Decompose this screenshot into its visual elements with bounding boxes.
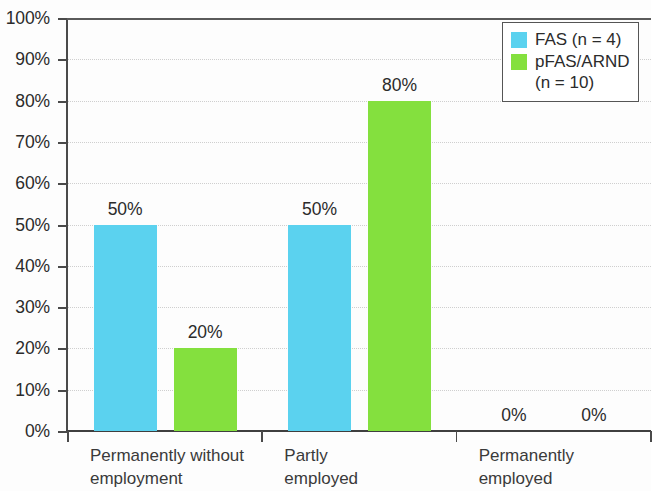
bar-value-label: 80% [382,75,417,96]
chart-legend: FAS (n = 4) pFAS/ARND (n = 10) [502,22,639,102]
bar [174,348,237,431]
bar [368,101,431,431]
y-axis-tick-mark [58,348,67,350]
y-axis-labels: 0%10%20%30%40%50%60%70%80%90%100% [0,0,58,438]
y-axis-tick-mark [58,266,67,268]
y-axis-tick-mark [58,18,67,20]
legend-entry-pfas: pFAS/ARND (n = 10) [511,51,629,93]
y-axis-tick-mark [58,431,67,433]
y-axis-tick-label: 0% [25,421,50,442]
legend-entry-fas: FAS (n = 4) [511,29,629,50]
legend-swatch-fas-icon [511,32,527,48]
y-axis-tick-label: 50% [15,214,50,235]
y-axis-tick-label: 80% [15,90,50,111]
x-axis-category-labels: Permanently without employmentPartly emp… [66,444,651,491]
y-axis-tick-mark [58,225,67,227]
y-axis-tick-mark [58,307,67,309]
bar-value-label: 0% [501,405,526,426]
bar-value-label: 50% [302,199,337,220]
x-axis-tick-mark [456,431,458,442]
legend-swatch-pfas-icon [511,54,527,70]
y-axis-tick-mark [58,59,67,61]
y-axis-tick-mark [58,142,67,144]
x-axis-category-label: Permanently without employment [90,444,264,490]
y-axis-tick-label: 70% [15,131,50,152]
x-axis-tick-mark [67,431,69,442]
bar-value-label: 20% [188,322,223,343]
y-axis-tick-label: 60% [15,173,50,194]
x-axis-tick-mark [261,431,263,442]
y-axis-tick-label: 90% [15,49,50,70]
x-axis-category-label: Permanently employed [479,444,653,490]
legend-label-pfas: pFAS/ARND (n = 10) [535,51,629,93]
y-axis-tick-label: 10% [15,379,50,400]
y-axis-tick-label: 100% [6,8,50,29]
bar-value-label: 0% [581,405,606,426]
x-axis-tick-mark [650,431,652,442]
y-axis-tick-mark [58,101,67,103]
legend-label-fas: FAS (n = 4) [535,29,621,50]
y-axis-tick-mark [58,183,67,185]
y-axis-tick-mark [58,390,67,392]
bar-value-label: 50% [108,199,143,220]
bar [94,225,157,432]
bar [288,225,351,432]
y-axis-tick-label: 20% [15,338,50,359]
x-axis-category-label: Partly employed [284,444,458,490]
y-axis-tick-label: 30% [15,297,50,318]
y-axis-tick-label: 40% [15,255,50,276]
